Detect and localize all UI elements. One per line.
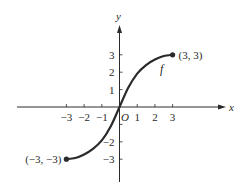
y-tick-label: 3 bbox=[109, 49, 115, 61]
y-tick-label: 2 bbox=[109, 66, 115, 78]
x-axis-arrow-icon bbox=[218, 105, 226, 110]
x-tick-label: −2 bbox=[78, 111, 90, 123]
y-axis-arrow-icon bbox=[117, 25, 122, 33]
x-tick-label: −3 bbox=[61, 111, 73, 123]
x-tick-label: 3 bbox=[170, 111, 176, 123]
endpoint-left-label: (−3, −3) bbox=[25, 153, 62, 166]
endpoint-right bbox=[170, 52, 175, 57]
x-tick-label: −1 bbox=[96, 111, 108, 123]
labels: x y O f bbox=[115, 10, 234, 123]
x-axis-label: x bbox=[228, 101, 234, 113]
y-tick-label: −3 bbox=[103, 153, 115, 165]
origin-label: O bbox=[121, 111, 129, 123]
x-tick-label: 1 bbox=[134, 111, 140, 123]
x-tick-label: 2 bbox=[152, 111, 158, 123]
endpoint-right-label: (3, 3) bbox=[179, 49, 203, 62]
y-axis-label: y bbox=[115, 10, 121, 22]
function-graph: −3−2−1123−3−2123 (−3, −3)(3, 3) x y O f bbox=[0, 0, 242, 192]
curve-label-f: f bbox=[160, 62, 165, 76]
endpoint-left bbox=[64, 157, 69, 162]
y-tick-label: 1 bbox=[109, 84, 115, 96]
